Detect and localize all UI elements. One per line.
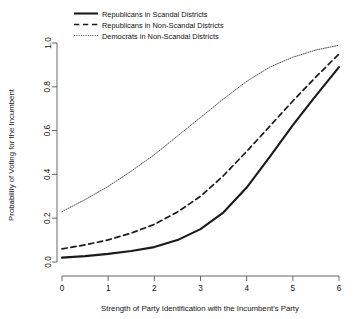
y-tick-label: 0.6	[44, 124, 53, 136]
chart-container: Republicans in Scandal Districts Republi…	[0, 0, 354, 319]
probability-line-chart: Republicans in Scandal Districts Republi…	[0, 0, 354, 319]
legend: Republicans in Scandal Districts Republi…	[74, 10, 224, 41]
series-line-2	[62, 45, 339, 211]
x-tick-label: 2	[152, 284, 157, 293]
x-axis-title: Strength of Party Identification with th…	[101, 304, 299, 313]
x-tick-label: 3	[198, 284, 203, 293]
legend-label-2: Democrats in Non-Scandal Districts	[102, 32, 219, 41]
y-tick-label: 0.8	[44, 81, 53, 93]
y-tick-label: 0.4	[44, 168, 53, 180]
y-axis-title: Probability of Voting for the Incumbent	[7, 88, 16, 221]
legend-label-1: Republicans in Non-Scandal Districts	[102, 21, 224, 30]
y-axis: 0.00.20.40.60.81.0	[44, 37, 58, 268]
x-tick-label: 6	[337, 284, 342, 293]
legend-label-0: Republicans in Scandal Districts	[102, 10, 208, 19]
series-lines	[62, 45, 339, 257]
x-tick-label: 1	[106, 284, 111, 293]
y-tick-label: 0.2	[44, 212, 53, 224]
x-tick-label: 0	[60, 284, 65, 293]
series-line-1	[62, 54, 339, 249]
x-tick-label: 5	[291, 284, 296, 293]
x-axis: 0123456	[60, 276, 342, 293]
y-tick-label: 1.0	[44, 37, 53, 49]
y-tick-label: 0.0	[44, 256, 53, 268]
x-tick-label: 4	[244, 284, 249, 293]
